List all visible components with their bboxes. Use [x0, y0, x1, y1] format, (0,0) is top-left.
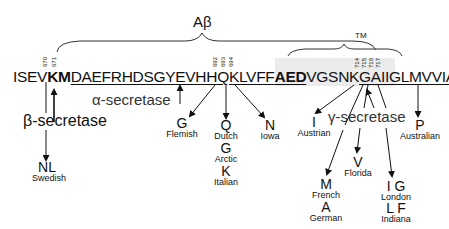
mutation-dutch: Q Dutch — [210, 118, 242, 141]
tm-brace — [288, 44, 402, 56]
seq-km: KM — [47, 68, 71, 85]
mutation-london: I G London — [376, 179, 416, 202]
seq-aed: AED — [275, 68, 307, 85]
mutation-italian: K Italian — [210, 164, 242, 187]
residue-715: 715 — [361, 58, 367, 68]
residue-693: 693 — [220, 57, 226, 67]
seq-pre: ISEV — [13, 68, 47, 85]
abeta-label: Aβ — [193, 14, 212, 29]
seq-tm-1: GAIIGLMVVIA — [359, 68, 449, 85]
residue-717: 717 — [375, 58, 381, 68]
mutation-swedish: NL Swedish — [32, 160, 62, 183]
mutation-florida: V Florida — [340, 155, 376, 178]
seq-abeta-1: DAEFRHDSGYEVHHQKLVFF — [71, 68, 275, 85]
residue-714: 714 — [354, 58, 360, 68]
app-sequence: ISEVKMDAEFRHDSGYEVHHQKLVFFAEDVGSNKGAIIGL… — [13, 69, 449, 85]
residue-670: 670 — [42, 57, 48, 67]
mutation-arctic: G Arctic — [210, 141, 242, 164]
residue-692: 692 — [212, 57, 218, 67]
residue-694: 694 — [228, 57, 234, 67]
mutation-flemish: G Flemish — [162, 116, 202, 139]
mutation-iowa: N Iowa — [256, 118, 284, 141]
residue-716: 716 — [368, 58, 374, 68]
mutation-indiana: L F Indiana — [376, 201, 416, 224]
tm-label: TM — [355, 32, 367, 40]
mutation-austrian: I Austrian — [294, 115, 334, 138]
mutation-french: M French — [306, 177, 346, 200]
mutation-german: A German — [306, 200, 346, 223]
app-processing-diagram: Aβ TM 670 671 692 693 694 714 715 716 71… — [0, 0, 449, 229]
seq-abeta-2: VGSNK — [306, 68, 359, 85]
mutation-australian: P Australian — [396, 118, 444, 141]
residue-671: 671 — [51, 57, 57, 67]
gamma-secretase-label: γ-secretase — [328, 109, 406, 124]
alpha-secretase-label: α-secretase — [92, 92, 171, 107]
beta-secretase-label: β-secretase — [23, 113, 107, 129]
